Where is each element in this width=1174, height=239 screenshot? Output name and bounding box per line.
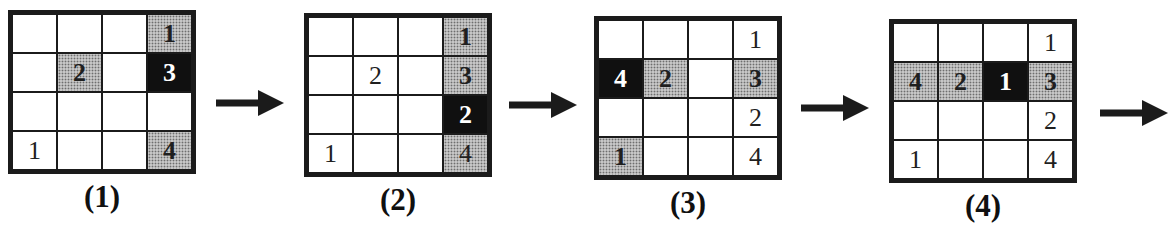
grid-cell-solid-3: 3 (148, 54, 191, 91)
grid-cell-plain-1: 1 (1029, 24, 1072, 61)
grid-cell-empty (399, 135, 442, 172)
grid-cell-empty (644, 138, 687, 175)
grid-cell-empty (599, 99, 642, 136)
grid-cell-empty (148, 93, 191, 130)
grid-cell-shaded-4: 4 (894, 63, 937, 100)
grid-cell-empty (894, 102, 937, 139)
right-arrow-icon (801, 95, 869, 121)
grid-cell-plain-1: 1 (734, 21, 777, 58)
grid-cell-plain-4: 4 (734, 138, 777, 175)
grid-cell-plain-1: 1 (13, 132, 56, 169)
grid-cell-empty (309, 18, 352, 55)
puzzle-grid-3: 1423214 (594, 16, 782, 180)
grid-cell-empty (354, 135, 397, 172)
grid-cell-empty (689, 21, 732, 58)
grid-cell-empty (894, 24, 937, 61)
grid-cell-shaded-1: 1 (148, 15, 191, 52)
grid-cell-empty (399, 96, 442, 133)
grid-cell-shaded-1: 1 (444, 18, 487, 55)
grid-label-1: (1) (84, 179, 120, 215)
grid-cell-shaded-plain-4: 4 (444, 135, 487, 172)
grid-cell-empty (103, 93, 146, 130)
grid-cell-empty (984, 24, 1027, 61)
grid-cell-empty (354, 96, 397, 133)
grid-cell-empty (58, 93, 101, 130)
puzzle-sequence-figure: 12314 (1) 123214 (2) 1423214 (3) 1421321… (0, 0, 1174, 239)
grid-cell-shaded-3: 3 (1029, 63, 1072, 100)
grid-cell-empty (309, 57, 352, 94)
grid-cell-shaded-2: 2 (939, 63, 982, 100)
grid-cell-empty (58, 15, 101, 52)
grid-cell-shaded-4: 4 (148, 132, 191, 169)
grid-cell-empty (103, 15, 146, 52)
grid-label-3: (3) (670, 185, 706, 221)
grid-cell-solid-1: 1 (984, 63, 1027, 100)
right-arrow-icon (216, 90, 284, 116)
grid-cell-plain-2: 2 (734, 99, 777, 136)
grid-cell-empty (13, 54, 56, 91)
puzzle-grid-1: 12314 (8, 10, 196, 174)
grid-cell-empty (984, 102, 1027, 139)
grid-cell-empty (13, 15, 56, 52)
grid-cell-empty (103, 132, 146, 169)
grid-cell-empty (689, 138, 732, 175)
grid-cell-plain-4: 4 (1029, 141, 1072, 178)
grid-cell-plain-2: 2 (354, 57, 397, 94)
grid-cell-shaded-2: 2 (58, 54, 101, 91)
puzzle-grid-4: 14213214 (889, 19, 1077, 183)
grid-cell-empty (644, 21, 687, 58)
grid-cell-empty (309, 96, 352, 133)
grid-cell-solid-4: 4 (599, 60, 642, 97)
grid-label-2: (2) (380, 182, 416, 218)
grid-cell-shaded-3: 3 (444, 57, 487, 94)
puzzle-grid-2: 123214 (304, 13, 492, 177)
grid-label-4: (4) (965, 188, 1001, 224)
right-arrow-icon (509, 92, 577, 118)
grid-cell-plain-1: 1 (309, 135, 352, 172)
grid-cell-plain-2: 2 (1029, 102, 1072, 139)
right-arrow-icon (1100, 100, 1168, 126)
grid-cell-empty (58, 132, 101, 169)
grid-cell-empty (13, 93, 56, 130)
grid-cell-shaded-3: 3 (734, 60, 777, 97)
grid-cell-empty (103, 54, 146, 91)
grid-cell-empty (939, 141, 982, 178)
grid-cell-empty (399, 18, 442, 55)
puzzle-state-2: 123214 (2) (304, 13, 492, 218)
grid-cell-empty (599, 21, 642, 58)
grid-cell-empty (689, 99, 732, 136)
grid-cell-empty (939, 24, 982, 61)
grid-cell-empty (354, 18, 397, 55)
grid-cell-shaded-2: 2 (644, 60, 687, 97)
grid-cell-empty (399, 57, 442, 94)
grid-cell-empty (689, 60, 732, 97)
grid-cell-solid-2: 2 (444, 96, 487, 133)
grid-cell-empty (939, 102, 982, 139)
grid-cell-empty (644, 99, 687, 136)
puzzle-state-4: 14213214 (4) (889, 19, 1077, 224)
grid-cell-shaded-1: 1 (599, 138, 642, 175)
puzzle-state-3: 1423214 (3) (594, 16, 782, 221)
grid-cell-empty (984, 141, 1027, 178)
puzzle-state-1: 12314 (1) (8, 10, 196, 215)
grid-cell-plain-1: 1 (894, 141, 937, 178)
